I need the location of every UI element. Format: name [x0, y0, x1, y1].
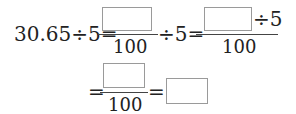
fraction1-numerator-blank[interactable]: [102, 7, 152, 31]
row2-equals-2: =: [148, 82, 165, 102]
fraction2-denominator: 100: [222, 38, 256, 56]
fraction2-numerator-divisor: ÷5: [253, 9, 282, 29]
fraction1-denominator: 100: [113, 38, 147, 56]
fraction2-numerator-blank[interactable]: [204, 7, 252, 31]
fraction3-numerator-blank[interactable]: [103, 63, 145, 88]
answer-blank[interactable]: [166, 78, 208, 104]
fraction3-denominator: 100: [108, 96, 142, 114]
